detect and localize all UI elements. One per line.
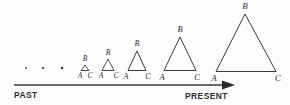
stage-3-dot xyxy=(61,67,64,70)
stage-5-triangle: BAC xyxy=(98,48,120,80)
stage-1-dot xyxy=(25,67,27,69)
vertex-label-a: A xyxy=(210,73,217,83)
timeline-axis: PAST PRESENT xyxy=(14,81,235,102)
stage-dot-mark xyxy=(25,67,27,69)
stage-dot-mark xyxy=(61,67,64,70)
stage-dot-mark xyxy=(42,67,44,69)
stage-2-dot xyxy=(42,67,44,69)
vertex-label-c: C xyxy=(87,71,93,80)
vertex-label-c: C xyxy=(275,73,282,83)
stages-layer: BACBACBACBACBAC xyxy=(25,1,282,83)
stage-7-triangle: BAC xyxy=(158,24,200,82)
vertex-label-b: B xyxy=(106,48,111,57)
figure-canvas: BACBACBACBACBAC PAST PRESENT xyxy=(0,0,290,105)
vertex-label-c: C xyxy=(145,72,151,81)
timeline-arrowhead-icon xyxy=(222,81,235,90)
evolution-triangle-figure: BACBACBACBACBAC PAST PRESENT xyxy=(0,0,290,105)
axis-label-past: PAST xyxy=(14,90,38,100)
triangle-outline xyxy=(128,51,146,71)
stage-4-triangle: BAC xyxy=(77,54,94,80)
triangle-outline xyxy=(81,65,89,71)
vertex-label-b: B xyxy=(135,39,140,48)
vertex-label-a: A xyxy=(158,72,165,82)
vertex-label-b: B xyxy=(83,54,88,63)
stage-6-triangle: BAC xyxy=(123,39,152,81)
vertex-label-a: A xyxy=(77,71,83,80)
vertex-label-c: C xyxy=(194,72,200,82)
triangle-outline xyxy=(164,37,196,71)
vertex-label-b: B xyxy=(242,1,248,11)
vertex-label-c: C xyxy=(113,71,119,80)
triangle-outline xyxy=(102,59,114,71)
axis-label-present: PRESENT xyxy=(185,91,228,101)
stage-8-triangle: BAC xyxy=(210,1,282,83)
vertex-label-b: B xyxy=(177,24,182,34)
vertex-label-a: A xyxy=(123,72,129,81)
triangle-outline xyxy=(216,14,276,72)
vertex-label-a: A xyxy=(98,71,104,80)
